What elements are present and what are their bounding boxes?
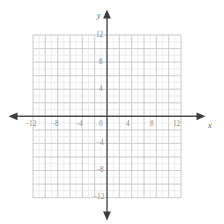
y-tick-label-pos4: 4	[99, 86, 103, 93]
coordinate-plane: y x −12 −8 −4 0 4 8 12 12 8 4 −4 −8 −12	[0, 0, 224, 224]
y-axis-label: y	[97, 12, 101, 20]
x-tick-label-neg8: −8	[51, 121, 59, 128]
grid-and-axes-graphic	[0, 0, 224, 224]
y-tick-label-pos8: 8	[99, 59, 103, 66]
x-tick-label-neg12: −12	[25, 121, 36, 128]
x-tick-label-pos12: 12	[173, 121, 180, 128]
y-axis-arrow-down	[103, 212, 111, 221]
x-tick-label-zero: 0	[99, 121, 103, 128]
x-axis-arrow-right	[197, 112, 206, 120]
x-tick-label-neg4: −4	[75, 121, 83, 128]
y-tick-label-neg8: −8	[96, 167, 104, 174]
x-tick-label-pos8: 8	[150, 121, 154, 128]
y-axis-arrow-up	[103, 10, 111, 19]
y-tick-label-neg4: −4	[96, 140, 104, 147]
y-tick-label-pos12: 12	[96, 32, 103, 39]
y-tick-label-neg12: −12	[93, 194, 104, 201]
x-tick-label-pos4: 4	[126, 121, 130, 128]
x-axis-label: x	[208, 122, 212, 130]
x-axis-arrow-left	[9, 112, 18, 120]
